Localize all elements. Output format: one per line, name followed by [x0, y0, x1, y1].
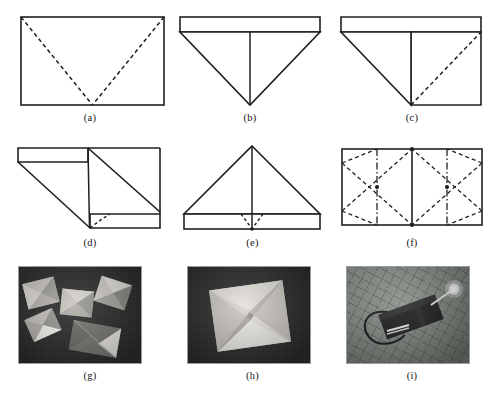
panel-b-drawing — [175, 10, 325, 110]
panel-f-drawing — [333, 140, 491, 235]
panel-g: (g) — [10, 266, 170, 396]
panel-i: (i) — [333, 266, 491, 396]
panel-caption-d: (d) — [10, 237, 170, 248]
panel-caption-b: (b) — [175, 112, 325, 123]
photo-vignette-g — [19, 267, 141, 363]
photo-vignette-h — [188, 267, 310, 363]
panel-d: (d) — [10, 140, 170, 255]
panel-h-photograph — [187, 266, 311, 364]
photo-vignette-i — [347, 267, 469, 363]
panel-caption-h: (h) — [175, 370, 330, 381]
panel-a: (a) — [10, 10, 170, 130]
panel-a-drawing — [10, 10, 170, 110]
multi-panel-figure: (a) (b) (c) — [0, 0, 501, 406]
panel-c-drawing — [333, 10, 491, 110]
panel-caption-a: (a) — [10, 112, 170, 123]
panel-caption-e: (e) — [175, 237, 330, 248]
panel-c: (c) — [333, 10, 491, 130]
panel-f: (f) — [333, 140, 491, 255]
panel-e-drawing — [175, 140, 330, 235]
panel-h: (h) — [175, 266, 330, 396]
panel-i-photograph — [346, 266, 470, 364]
panel-caption-g: (g) — [10, 370, 170, 381]
panel-caption-c: (c) — [333, 112, 491, 123]
panel-caption-f: (f) — [333, 237, 491, 248]
panel-g-photograph — [18, 266, 142, 364]
panel-caption-i: (i) — [333, 370, 491, 381]
panel-b: (b) — [175, 10, 325, 130]
panel-d-drawing — [10, 140, 170, 235]
panel-e: (e) — [175, 140, 330, 255]
